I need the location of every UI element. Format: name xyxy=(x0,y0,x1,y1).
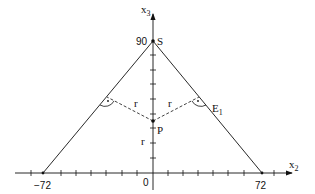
point-x-left xyxy=(42,172,45,175)
radius-left xyxy=(107,97,153,121)
label-p: P xyxy=(157,124,163,136)
y-tick-90: 90 xyxy=(136,36,148,47)
radius-label-left: r xyxy=(134,97,138,109)
radius-label-right: r xyxy=(168,97,172,109)
x-tick-72: 72 xyxy=(255,180,267,191)
x3-axis-label: x3 xyxy=(141,3,151,18)
point-s xyxy=(151,39,155,43)
x-tick-neg72: −72 xyxy=(34,180,51,191)
radius-right xyxy=(153,97,199,121)
right-angle-mark-right xyxy=(192,101,206,106)
cone-cross-section-diagram: x3 x2 90 S P E1 r r r −72 72 0 xyxy=(0,0,315,194)
origin-label: 0 xyxy=(143,177,149,188)
radius-label-axis: r xyxy=(141,135,145,147)
point-p xyxy=(151,119,155,123)
label-s: S xyxy=(157,35,163,47)
x2-axis-label: x2 xyxy=(289,158,299,173)
point-x-right xyxy=(261,172,264,175)
